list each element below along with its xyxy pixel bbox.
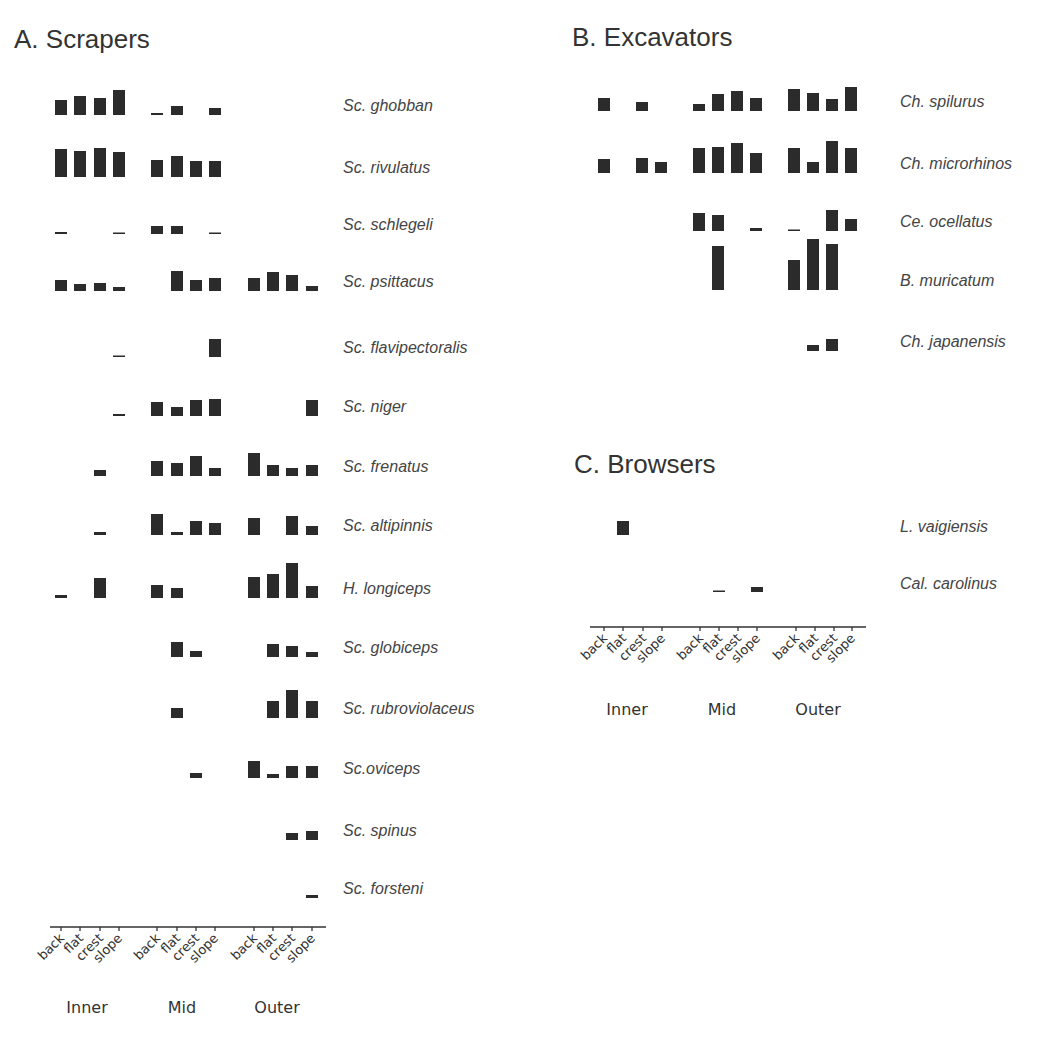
zone-label: Inner: [606, 700, 648, 719]
bar: [598, 98, 610, 111]
species-label: H. longiceps: [343, 580, 431, 597]
bar: [807, 239, 819, 290]
bar: [788, 89, 800, 111]
bar: [845, 219, 857, 231]
species-label: Sc. ghobban: [343, 97, 433, 114]
species-label: Sc. spinus: [343, 822, 417, 839]
bar: [171, 532, 183, 535]
scrapers-bars: [55, 90, 318, 898]
bar: [267, 574, 279, 598]
bar: [113, 233, 125, 235]
bar: [171, 463, 183, 476]
bar: [788, 230, 800, 232]
bar: [712, 246, 724, 290]
bar: [209, 399, 221, 416]
bar: [693, 213, 705, 231]
species-row: [94, 514, 318, 535]
species-row: [113, 339, 221, 357]
bar: [209, 233, 221, 235]
zone-label: Outer: [254, 998, 300, 1017]
bar: [248, 761, 260, 778]
bar: [171, 588, 183, 598]
bar: [190, 651, 202, 657]
species-row: [190, 761, 318, 778]
zone-label: Outer: [795, 700, 841, 719]
zone-label: Mid: [708, 700, 736, 719]
bar: [267, 272, 279, 291]
bar: [151, 461, 163, 476]
bar: [306, 652, 318, 657]
bar: [151, 226, 163, 234]
bar: [788, 148, 800, 173]
bar: [248, 453, 260, 476]
bar: [306, 286, 318, 291]
panel-browsers: C. Browsers L. vaigiensisCal. carolinus …: [574, 449, 997, 719]
bar: [845, 87, 857, 111]
bar: [55, 100, 67, 115]
bar: [826, 210, 838, 231]
species-label: Sc. rubroviolaceus: [343, 700, 475, 717]
bar: [55, 595, 67, 598]
bar: [750, 98, 762, 111]
bar: [267, 701, 279, 718]
bar: [286, 468, 298, 476]
species-row: [286, 831, 318, 840]
bar: [113, 414, 125, 416]
bar: [712, 94, 724, 111]
species-label: Ch. microrhinos: [900, 155, 1012, 172]
bar: [171, 226, 183, 234]
bar: [151, 402, 163, 416]
bar: [55, 149, 67, 177]
bar: [55, 280, 67, 291]
bar: [306, 701, 318, 718]
bar: [750, 228, 762, 231]
panel-title-excavators: B. Excavators: [572, 22, 732, 52]
bar: [190, 161, 202, 177]
bar: [598, 159, 610, 173]
bar: [190, 280, 202, 291]
excavators-bars: [598, 87, 857, 351]
zone-label: Inner: [66, 998, 108, 1017]
bar: [826, 244, 838, 290]
panel-title-scrapers: A. Scrapers: [14, 24, 150, 54]
species-row: [55, 271, 318, 291]
bar: [113, 152, 125, 177]
species-row: [55, 226, 221, 234]
species-label: Sc. rivulatus: [343, 159, 430, 176]
species-row: [693, 210, 857, 231]
species-label: Sc. altipinnis: [343, 517, 433, 534]
bar: [209, 523, 221, 535]
bar: [286, 766, 298, 778]
bar: [826, 339, 838, 351]
bar: [712, 147, 724, 173]
species-label: Ch. japanensis: [900, 333, 1006, 350]
bar: [171, 642, 183, 657]
panel-title-browsers: C. Browsers: [574, 449, 716, 479]
species-label: B. muricatum: [900, 272, 994, 289]
bar: [248, 577, 260, 598]
bar: [94, 98, 106, 115]
bar: [94, 470, 106, 476]
bar: [286, 563, 298, 598]
bar: [655, 162, 667, 173]
bar: [171, 407, 183, 416]
panel-scrapers: A. Scrapers Sc. ghobbanSc. rivulatusSc. …: [14, 24, 475, 1017]
bar: [731, 143, 743, 173]
bar: [788, 260, 800, 290]
bar: [94, 148, 106, 177]
bar: [267, 774, 279, 778]
bar: [731, 91, 743, 111]
species-row: [55, 148, 221, 177]
species-row: [807, 339, 838, 351]
bar: [636, 158, 648, 173]
bar: [171, 271, 183, 291]
bar: [713, 591, 725, 593]
species-row: [598, 87, 857, 111]
bar: [171, 156, 183, 177]
scrapers-x-axis: backflatcrestslopebackflatcrestslopeback…: [35, 927, 326, 1017]
bar: [306, 465, 318, 476]
bar: [306, 766, 318, 778]
bar: [74, 284, 86, 291]
bar: [693, 104, 705, 111]
bar: [286, 516, 298, 535]
